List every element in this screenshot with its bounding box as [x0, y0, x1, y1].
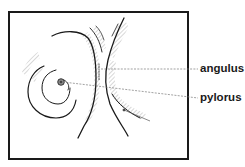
label-angulus: angulus — [200, 63, 244, 75]
stomach-sketch — [0, 0, 245, 167]
diagram-figure: angulus pylorus — [0, 0, 245, 167]
leader-pylorus — [63, 82, 198, 98]
label-pylorus: pylorus — [200, 92, 242, 104]
shading — [22, 23, 146, 125]
leader-lines — [63, 69, 198, 98]
